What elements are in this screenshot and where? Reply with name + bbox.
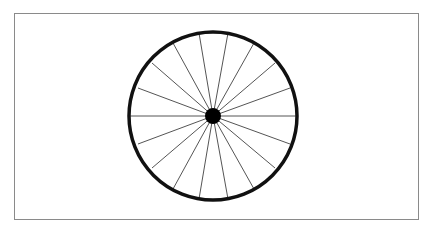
spoke: [213, 88, 290, 116]
spoke: [152, 116, 213, 168]
spoke: [138, 88, 213, 116]
spoke: [138, 116, 213, 144]
spoke: [213, 116, 275, 168]
spoke: [152, 63, 213, 116]
spoke: [213, 116, 290, 144]
bicycle-wheel: [0, 0, 436, 231]
wheel-hub: [205, 108, 221, 124]
spoke: [213, 63, 275, 116]
